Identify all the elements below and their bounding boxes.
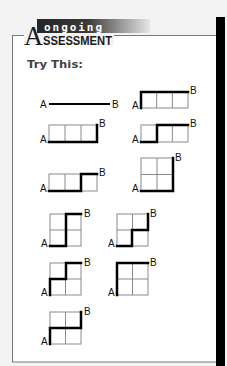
point-b-label: B (150, 257, 157, 268)
point-a-label: A (132, 183, 139, 194)
point-a-label: A (40, 134, 47, 145)
point-a-label: A (108, 287, 115, 298)
point-a-label: A (132, 100, 139, 111)
title-initial: A (24, 21, 43, 51)
worksheet-page: ongoing A SSESSMENT Try This: ABABABABAB… (0, 0, 227, 366)
point-a-label: A (41, 238, 48, 249)
point-b-label: B (112, 99, 119, 110)
point-b-label: B (84, 208, 91, 219)
banner-word: ongoing (44, 21, 102, 34)
content-box (13, 36, 219, 363)
point-b-label: B (84, 257, 91, 268)
point-a-label: A (40, 183, 47, 194)
point-b-label: B (150, 208, 157, 219)
section-heading: Try This: (27, 58, 83, 71)
point-a-label: A (108, 238, 115, 249)
point-a-label: A (41, 336, 48, 347)
side-bar (216, 17, 225, 366)
point-b-label: B (99, 167, 106, 178)
worksheet-canvas: ongoing A SSESSMENT Try This: ABABABABAB… (0, 0, 227, 366)
point-b-label: B (175, 152, 182, 163)
point-b-label: B (84, 306, 91, 317)
point-b-label: B (99, 118, 106, 129)
point-a-label: A (41, 287, 48, 298)
point-a-label: A (40, 99, 47, 110)
point-b-label: B (190, 118, 197, 129)
point-b-label: B (190, 85, 197, 96)
point-a-label: A (132, 134, 139, 145)
title-rest: SSESSMENT (43, 33, 112, 48)
